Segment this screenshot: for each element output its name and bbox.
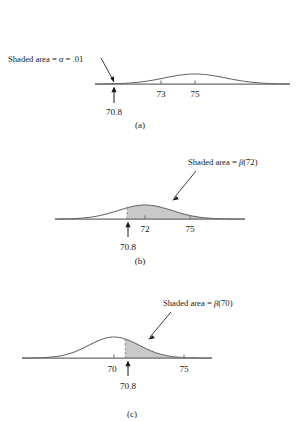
leader-arrow-c (148, 312, 171, 340)
marker-label-a: 70.8 (106, 107, 122, 117)
annotation-b-arg: (72) (243, 157, 257, 167)
marker-arrow-b (125, 222, 130, 238)
panel-b: 72 75 70.8 Shaded area = β(72) (b) (0, 131, 297, 267)
annotation-b-prefix: Shaded area = (188, 157, 239, 167)
annotation-c-arg: (70) (218, 298, 232, 308)
annotation-c: Shaded area = β(70) (163, 298, 233, 308)
tick-label-b-1: 75 (185, 224, 195, 234)
annotation-c-prefix: Shaded area = (163, 298, 214, 308)
marker-label-b: 70.8 (120, 242, 136, 252)
annotation-a-prefix: Shaded area = (8, 54, 59, 64)
annotation-b: Shaded area = β(72) (188, 157, 258, 167)
panel-c: 70 75 70.8 Shaded area = β(70) (c) (0, 267, 297, 421)
caption-a: (a) (135, 120, 145, 130)
tick-label-c-1: 75 (179, 364, 189, 374)
tick-label-a-0: 73 (156, 89, 166, 99)
tick-label-b-0: 72 (140, 224, 150, 234)
marker-arrow-a (111, 87, 116, 104)
tick-label-c-0: 70 (107, 364, 117, 374)
caption-b: (b) (135, 256, 146, 266)
annotation-a-middle: = (63, 54, 72, 64)
marker-arrow-c (125, 361, 130, 377)
leader-arrow-a (101, 58, 114, 83)
tick-label-a-1: 75 (190, 89, 200, 99)
shaded-area-c (125, 339, 212, 358)
normal-curve-a (95, 74, 290, 84)
marker-label-c: 70.8 (120, 381, 136, 391)
figure-container: 73 75 70.8 Shaded area = α = .01 (a) 72 … (0, 0, 297, 421)
leader-arrow-b (172, 171, 196, 201)
annotation-a: Shaded area = α = .01 (8, 54, 83, 64)
caption-c: (c) (127, 409, 137, 419)
panel-a: 73 75 70.8 Shaded area = α = .01 (a) (0, 0, 297, 131)
annotation-a-value: .01 (73, 54, 84, 64)
